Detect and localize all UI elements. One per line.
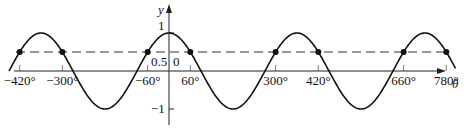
x-tick-label--420: −420°: [4, 73, 36, 88]
y-tick-label-neg-1: −1: [151, 101, 165, 116]
x-tick-label-300: 300°: [263, 73, 288, 88]
x-tick-label--300: −300°: [46, 73, 78, 88]
intersection-point-300: [273, 49, 279, 55]
intersection-point-420: [315, 49, 321, 55]
axes: [14, 4, 446, 125]
y-axis-label: y: [156, 2, 164, 17]
x-tick-label-60: 60°: [181, 73, 199, 88]
labels-group: y θ 1 0.5 0 −1: [151, 2, 459, 116]
intersection-point--420: [17, 49, 23, 55]
cosine-graph: −420°−300°−60°60°300°420°660°780° y θ 1 …: [0, 0, 466, 131]
y-axis-arrow-icon: [166, 4, 172, 13]
intersection-point--60: [145, 49, 151, 55]
x-tick-label-660: 660°: [391, 73, 416, 88]
intersection-point-60: [187, 49, 193, 55]
x-tick-label--60: −60°: [135, 73, 161, 88]
y-tick-label-0.5: 0.5: [151, 54, 167, 69]
intersection-point--300: [59, 49, 65, 55]
intersection-point-780: [443, 49, 449, 55]
y-tick-label-1: 1: [158, 18, 165, 33]
intersection-point-660: [401, 49, 407, 55]
x-tick-label-420: 420°: [306, 73, 331, 88]
origin-label: 0: [173, 54, 180, 69]
x-axis-label: θ: [452, 76, 459, 91]
